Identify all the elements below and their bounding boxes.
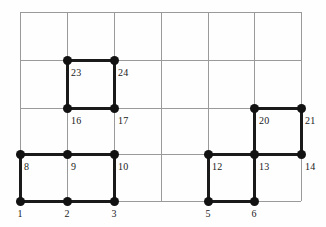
path-vertex-node — [297, 104, 306, 113]
path-vertex-node — [110, 197, 119, 206]
cell-label: 24 — [118, 67, 128, 78]
path-edge-vertical — [207, 154, 210, 201]
axis-label: 1 — [10, 208, 30, 219]
path-vertex-node — [204, 150, 213, 159]
path-edge-vertical — [113, 60, 116, 108]
lattice-diagram: 232416172021891012131412356 — [0, 0, 326, 227]
cell-label: 8 — [24, 161, 29, 172]
path-vertex-node — [63, 56, 72, 65]
path-edge-vertical — [66, 60, 69, 108]
path-edge-vertical — [300, 108, 303, 154]
grid-line-horizontal — [20, 12, 301, 13]
path-vertex-node — [110, 150, 119, 159]
path-vertex-node — [110, 56, 119, 65]
path-edge-horizontal — [67, 59, 114, 62]
path-edge-horizontal — [208, 200, 254, 203]
cell-label: 12 — [212, 161, 222, 172]
axis-label: 2 — [57, 208, 77, 219]
grid-line-vertical — [161, 12, 162, 201]
path-vertex-node — [250, 197, 259, 206]
path-vertex-node — [63, 197, 72, 206]
path-edge-vertical — [253, 154, 256, 201]
cell-label: 17 — [118, 115, 128, 126]
path-edge-horizontal — [67, 107, 114, 110]
axis-label: 6 — [244, 208, 264, 219]
path-edge-vertical — [113, 154, 116, 201]
path-vertex-node — [297, 150, 306, 159]
path-vertex-node — [250, 150, 259, 159]
cell-label: 13 — [259, 161, 269, 172]
axis-label: 5 — [198, 208, 218, 219]
axis-label: 3 — [104, 208, 124, 219]
path-vertex-node — [16, 197, 25, 206]
path-vertex-node — [204, 197, 213, 206]
cell-label: 16 — [71, 115, 81, 126]
cell-label: 9 — [71, 161, 76, 172]
path-edge-vertical — [253, 108, 256, 154]
cell-label: 20 — [259, 115, 269, 126]
cell-label: 23 — [71, 67, 81, 78]
path-vertex-node — [63, 150, 72, 159]
path-vertex-node — [110, 104, 119, 113]
path-vertex-node — [16, 150, 25, 159]
path-vertex-node — [63, 104, 72, 113]
path-edge-horizontal — [254, 107, 301, 110]
cell-label: 21 — [305, 115, 315, 126]
cell-label: 14 — [305, 161, 315, 172]
path-edge-vertical — [19, 154, 22, 201]
path-vertex-node — [250, 104, 259, 113]
cell-label: 10 — [118, 161, 128, 172]
